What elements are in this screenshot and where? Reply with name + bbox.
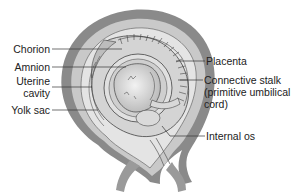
yolk-sac-shape (136, 110, 160, 126)
label-connective-stalk-line2: (primitive umbilical (204, 86, 290, 98)
label-chorion: Chorion (5, 43, 50, 55)
label-placenta: Placenta (206, 55, 247, 67)
label-internal-os: Internal os (206, 130, 255, 142)
label-connective-stalk-line3: cord) (204, 98, 228, 110)
label-amnion: Amnion (5, 61, 50, 73)
label-connective-stalk-line1: Connective stalk (204, 74, 281, 86)
label-yolk-sac: Yolk sac (0, 104, 50, 116)
label-uterine-cavity-line2: cavity (5, 87, 50, 99)
label-uterine-cavity-line1: Uterine (5, 75, 50, 87)
